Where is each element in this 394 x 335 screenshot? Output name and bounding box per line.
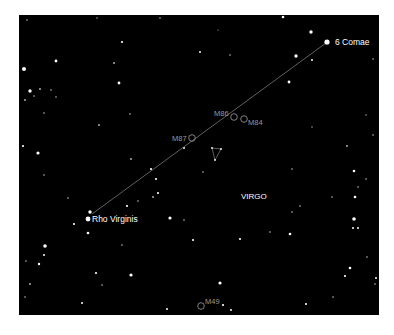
star bbox=[349, 267, 352, 270]
star bbox=[352, 217, 356, 221]
named-star: Rho Virginis bbox=[86, 214, 138, 224]
star bbox=[152, 196, 154, 198]
star bbox=[374, 283, 376, 285]
star bbox=[166, 308, 168, 310]
star bbox=[36, 151, 39, 154]
star bbox=[150, 168, 152, 170]
star bbox=[121, 41, 123, 43]
star bbox=[183, 219, 185, 221]
star bbox=[137, 200, 139, 202]
star bbox=[229, 54, 231, 56]
star bbox=[38, 263, 40, 265]
messier-label: M84 bbox=[248, 118, 263, 127]
messier-label: M49 bbox=[205, 297, 220, 306]
star bbox=[357, 227, 359, 229]
star bbox=[121, 244, 123, 246]
star bbox=[43, 174, 45, 176]
star bbox=[375, 277, 377, 279]
bright-star-icon bbox=[86, 217, 91, 222]
star bbox=[202, 171, 204, 173]
star bbox=[299, 205, 301, 207]
star bbox=[218, 281, 221, 284]
star bbox=[357, 186, 359, 188]
star bbox=[39, 88, 41, 90]
star bbox=[269, 231, 271, 233]
star bbox=[98, 124, 100, 126]
star bbox=[332, 296, 334, 298]
star bbox=[352, 227, 354, 229]
star bbox=[130, 158, 132, 160]
star bbox=[81, 302, 83, 304]
star bbox=[43, 254, 45, 256]
star bbox=[50, 89, 52, 91]
star bbox=[168, 216, 171, 219]
star bbox=[24, 99, 26, 101]
star bbox=[214, 159, 216, 161]
star bbox=[289, 233, 292, 236]
star bbox=[372, 134, 374, 136]
star bbox=[311, 126, 312, 127]
star bbox=[331, 196, 333, 198]
star bbox=[282, 16, 285, 19]
star bbox=[157, 192, 159, 194]
star bbox=[129, 273, 132, 276]
star bbox=[346, 145, 348, 147]
star bbox=[291, 168, 293, 170]
star bbox=[217, 29, 218, 30]
star bbox=[305, 303, 307, 305]
star bbox=[55, 96, 57, 98]
star bbox=[43, 244, 47, 248]
star-label: 6 Comae bbox=[335, 37, 370, 47]
star bbox=[354, 196, 357, 199]
star bbox=[220, 148, 222, 150]
star bbox=[288, 81, 291, 84]
star bbox=[73, 223, 75, 225]
star bbox=[113, 62, 115, 64]
star bbox=[26, 19, 28, 21]
star bbox=[230, 309, 232, 311]
star bbox=[95, 272, 97, 274]
star bbox=[33, 95, 35, 97]
star bbox=[365, 114, 366, 115]
star bbox=[28, 89, 31, 92]
star bbox=[129, 113, 131, 115]
messier-label: M86 bbox=[214, 109, 229, 118]
star bbox=[222, 304, 224, 306]
star bbox=[155, 178, 157, 180]
star bbox=[43, 112, 45, 114]
star-label: Rho Virginis bbox=[92, 214, 138, 224]
star bbox=[344, 275, 346, 277]
star bbox=[159, 17, 161, 19]
star bbox=[366, 256, 368, 258]
star bbox=[239, 238, 241, 240]
star bbox=[291, 211, 293, 213]
star bbox=[294, 54, 297, 57]
star bbox=[22, 145, 24, 147]
messier-label: M87 bbox=[172, 134, 187, 143]
star bbox=[192, 239, 194, 241]
star bbox=[24, 296, 26, 298]
star-chart: M86M84M87M49 6 ComaeRho Virginis VIRGO bbox=[0, 0, 394, 335]
star bbox=[118, 82, 121, 85]
star bbox=[67, 197, 69, 199]
star bbox=[199, 51, 201, 53]
star bbox=[101, 284, 103, 286]
star bbox=[311, 59, 313, 61]
star bbox=[22, 67, 26, 71]
star bbox=[365, 178, 367, 180]
star bbox=[372, 58, 374, 60]
star bbox=[25, 260, 27, 262]
star bbox=[309, 30, 312, 33]
star bbox=[87, 232, 90, 235]
sky-panel bbox=[19, 15, 379, 315]
star bbox=[126, 205, 128, 207]
star bbox=[211, 147, 213, 149]
constellation-label: VIRGO bbox=[241, 192, 267, 201]
star bbox=[55, 60, 58, 63]
star bbox=[353, 170, 356, 173]
star bbox=[29, 283, 31, 285]
bright-star-icon bbox=[324, 39, 329, 44]
star bbox=[96, 17, 97, 18]
